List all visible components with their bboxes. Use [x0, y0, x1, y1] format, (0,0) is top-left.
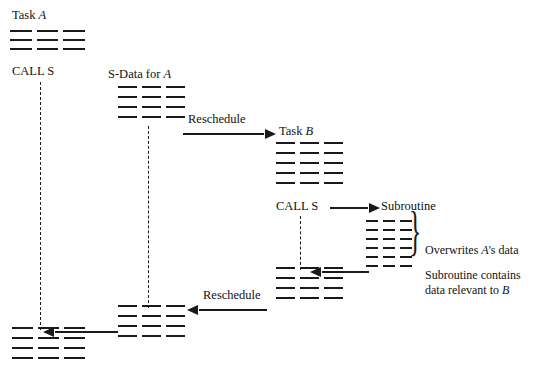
- code-dash: [276, 182, 295, 184]
- code-dash: [300, 172, 319, 174]
- code-dash: [118, 305, 137, 307]
- code-dash: [12, 337, 33, 339]
- code-dash: [324, 162, 343, 164]
- code-dash: [276, 297, 295, 299]
- code-dash: [383, 220, 395, 222]
- code-dash: [64, 327, 85, 329]
- code-dash: [383, 265, 395, 267]
- code-dash: [366, 238, 378, 240]
- code-dash: [324, 152, 343, 154]
- code-dash: [366, 247, 378, 249]
- code-dash: [276, 267, 295, 269]
- code-row: [276, 267, 343, 269]
- code-dash: [300, 182, 319, 184]
- code-dash: [324, 142, 343, 144]
- code-dash: [276, 142, 295, 144]
- diagram-canvas: Task A CALL S S-Data for A Reschedule Ta…: [0, 0, 548, 378]
- code-dash: [64, 337, 85, 339]
- code-dash: [324, 297, 343, 299]
- code-row: [12, 347, 85, 349]
- code-row: [10, 30, 85, 32]
- code-dash: [142, 96, 161, 98]
- code-dash: [300, 142, 319, 144]
- task-b-call-dashed-line: [300, 216, 301, 270]
- s-data-a-bottom-block: [118, 305, 185, 337]
- code-row: [118, 96, 185, 98]
- code-dash: [166, 325, 185, 327]
- task-b-resume-block: [276, 267, 343, 299]
- code-dash: [142, 305, 161, 307]
- code-dash: [166, 96, 185, 98]
- call-s-task-b-label: CALL S: [276, 199, 318, 214]
- code-dash: [166, 106, 185, 108]
- code-dash: [118, 96, 137, 98]
- code-dash: [38, 327, 59, 329]
- code-row: [276, 172, 343, 174]
- code-row: [276, 162, 343, 164]
- subroutine-code-block: [366, 220, 412, 267]
- code-dash: [118, 116, 137, 118]
- code-dash: [142, 335, 161, 337]
- code-row: [276, 152, 343, 154]
- code-dash: [142, 86, 161, 88]
- code-row: [118, 106, 185, 108]
- code-dash: [276, 152, 295, 154]
- code-dash: [166, 86, 185, 88]
- code-dash: [383, 256, 395, 258]
- code-row: [12, 357, 85, 359]
- code-dash: [142, 106, 161, 108]
- code-row: [276, 287, 343, 289]
- task-a-call-dashed-line: [40, 82, 41, 330]
- code-dash: [300, 267, 319, 269]
- code-dash: [324, 267, 343, 269]
- code-dash: [37, 30, 58, 32]
- code-dash: [118, 335, 137, 337]
- code-dash: [166, 116, 185, 118]
- code-dash: [324, 287, 343, 289]
- code-dash: [300, 287, 319, 289]
- code-row: [366, 247, 412, 249]
- code-dash: [64, 357, 85, 359]
- code-row: [118, 325, 185, 327]
- reschedule-bottom-arrow: [199, 309, 267, 311]
- task-b-code-block: [276, 142, 343, 184]
- code-dash: [10, 39, 32, 41]
- task-b-label: Task B: [279, 124, 313, 139]
- code-dash: [324, 182, 343, 184]
- code-dash: [383, 247, 395, 249]
- code-dash: [63, 39, 85, 41]
- code-row: [276, 277, 343, 279]
- code-dash: [366, 220, 378, 222]
- code-dash: [276, 277, 295, 279]
- code-row: [118, 305, 185, 307]
- subroutine-contains-annotation-line1: Subroutine contains: [425, 268, 521, 282]
- task-a-label: Task A: [12, 8, 46, 23]
- code-dash: [38, 337, 59, 339]
- code-row: [118, 335, 185, 337]
- code-dash: [276, 287, 295, 289]
- code-row: [276, 182, 343, 184]
- reschedule-top-label: Reschedule: [188, 112, 246, 127]
- code-dash: [142, 315, 161, 317]
- code-dash: [300, 162, 319, 164]
- task-a-resume-block: [12, 327, 85, 359]
- s-data-dashed-line: [148, 126, 149, 308]
- code-dash: [400, 265, 412, 267]
- code-dash: [63, 48, 85, 50]
- code-dash: [118, 86, 137, 88]
- reschedule-top-arrow: [183, 133, 264, 135]
- code-dash: [10, 30, 32, 32]
- code-dash: [166, 315, 185, 317]
- s-data-for-a-label: S-Data for A: [108, 67, 171, 82]
- code-row: [366, 238, 412, 240]
- code-row: [276, 142, 343, 144]
- code-dash: [37, 48, 58, 50]
- call-s-task-a-label: CALL S: [12, 64, 54, 79]
- code-dash: [118, 325, 137, 327]
- call-s-subroutine-arrow: [330, 207, 368, 209]
- code-dash: [63, 30, 85, 32]
- code-dash: [300, 297, 319, 299]
- code-dash: [366, 265, 378, 267]
- code-dash: [300, 277, 319, 279]
- subroutine-brace: }: [409, 203, 421, 258]
